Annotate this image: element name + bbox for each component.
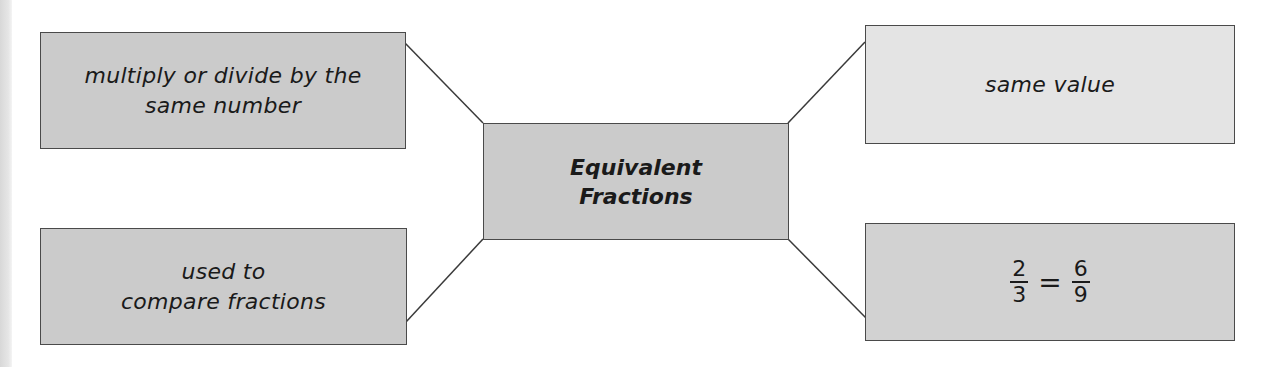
node-compare-fractions: used to compare fractions — [40, 228, 407, 345]
node-label-line1: multiply or divide by the — [84, 61, 361, 91]
fraction-left: 2 3 — [1010, 258, 1028, 306]
node-label-line1: used to — [121, 257, 326, 287]
concept-map-canvas: multiply or divide by the same number us… — [0, 0, 1268, 367]
node-label-line2: compare fractions — [121, 287, 326, 317]
fraction-equation: 2 3 = 6 9 — [1010, 258, 1089, 306]
fraction-left-numerator: 2 — [1010, 258, 1028, 283]
center-title-line2: Fractions — [570, 182, 702, 211]
fraction-left-denominator: 3 — [1012, 283, 1026, 306]
node-label: same value — [985, 70, 1115, 100]
node-center-equivalent-fractions: Equivalent Fractions — [483, 123, 789, 240]
node-fraction-example: 2 3 = 6 9 — [865, 223, 1235, 341]
center-title: Equivalent Fractions — [570, 153, 702, 211]
node-label-line1: same value — [985, 70, 1115, 100]
node-label-line2: same number — [84, 91, 361, 121]
connector-top-right — [788, 42, 865, 123]
node-label: multiply or divide by the same number — [84, 61, 361, 121]
fraction-right-denominator: 9 — [1074, 283, 1088, 306]
connector-bottom-left — [406, 239, 483, 322]
node-multiply-divide: multiply or divide by the same number — [40, 32, 406, 149]
fraction-right-numerator: 6 — [1072, 258, 1090, 283]
node-same-value: same value — [865, 25, 1235, 144]
fraction-right: 6 9 — [1072, 258, 1090, 306]
equals-sign: = — [1038, 266, 1061, 299]
center-title-line1: Equivalent — [570, 153, 702, 182]
connector-top-left — [405, 43, 483, 123]
node-label: used to compare fractions — [121, 257, 326, 317]
connector-bottom-right — [788, 239, 866, 318]
